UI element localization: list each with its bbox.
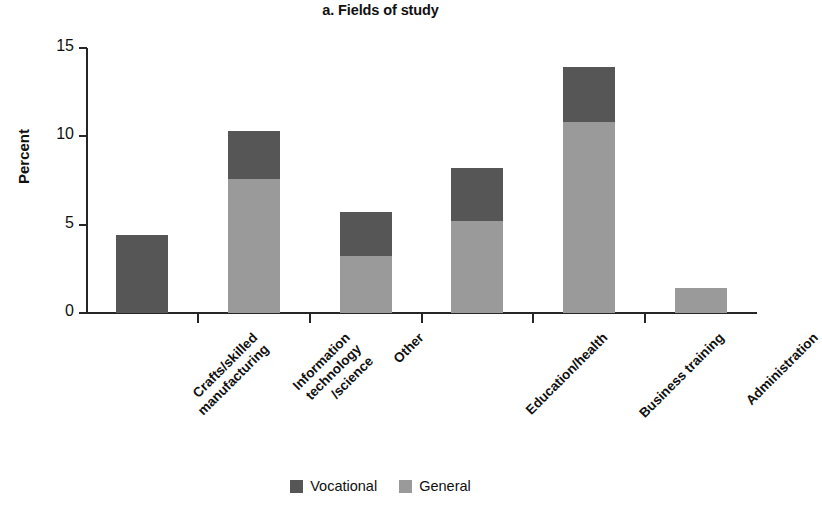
legend-label: Vocational [310,478,377,494]
x-axis-label: Information technology /science [289,330,376,417]
y-tick-label: 0 [26,302,74,320]
bar-group[interactable] [116,235,168,313]
bar-segment-general[interactable] [563,122,615,313]
bar-segment-vocational[interactable] [116,235,168,313]
bar-group[interactable] [451,168,503,313]
x-tick-mark [532,314,534,323]
legend-label: General [419,478,471,494]
x-axis-label: Crafts/skilled manufacturing [183,330,273,420]
legend-swatch-icon [290,480,303,493]
y-tick-label: 15 [26,37,74,55]
bar-group[interactable] [675,288,727,313]
bar-segment-vocational[interactable] [228,131,280,179]
bar-segment-general[interactable] [228,179,280,313]
bar-group[interactable] [228,131,280,313]
legend-item[interactable]: General [399,478,471,494]
x-axis-label: Education/health [523,330,612,419]
chart-title: a. Fields of study [0,2,761,18]
plot-area [86,40,757,313]
y-axis-title: Percent [15,97,32,217]
bar-group[interactable] [563,67,615,313]
x-tick-mark [421,314,423,323]
bar-group[interactable] [340,212,392,313]
bar-segment-general[interactable] [340,256,392,313]
bar-segment-vocational[interactable] [451,168,503,221]
y-tick-label: 5 [26,214,74,232]
chart-legend: VocationalGeneral [0,478,761,494]
x-tick-mark [644,314,646,323]
bar-segment-general[interactable] [675,288,727,313]
x-axis-label: Business training [636,330,728,422]
bar-segment-general[interactable] [451,221,503,313]
x-axis-label: Other [390,330,427,367]
x-tick-mark [197,314,199,323]
x-tick-mark [309,314,311,323]
y-tick-label: 10 [26,125,74,143]
legend-item[interactable]: Vocational [290,478,377,494]
x-axis-label: Administration [743,330,822,409]
legend-swatch-icon [399,480,412,493]
bar-segment-vocational[interactable] [563,67,615,122]
bar-segment-vocational[interactable] [340,212,392,256]
